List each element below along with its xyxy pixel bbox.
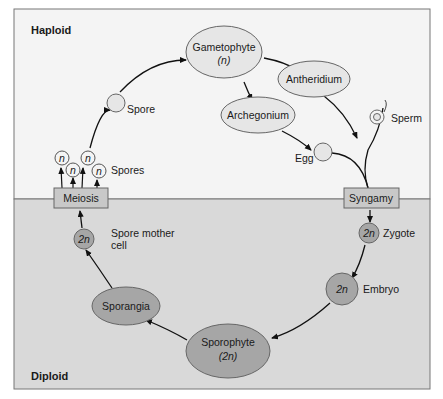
diploid-label: Diploid <box>31 370 68 382</box>
gametophyte-node: Gametophyte (n) <box>186 26 262 78</box>
haploid-label: Haploid <box>31 24 71 36</box>
spore-1-ploidy: n <box>59 152 65 164</box>
spore-label: Spore <box>127 103 155 115</box>
spores-label: Spores <box>111 164 144 176</box>
embryo-ploidy: 2n <box>335 283 348 295</box>
meiosis-box: Meiosis <box>54 188 108 208</box>
antheridium-label: Antheridium <box>286 73 342 85</box>
spore-mother-cell-label-1: Spore mother <box>111 227 175 239</box>
archegonium-label: Archegonium <box>227 109 289 121</box>
zygote-ploidy: 2n <box>362 227 375 239</box>
meiosis-label: Meiosis <box>63 192 99 204</box>
archegonium-node: Archegonium <box>221 97 295 133</box>
syngamy-box: Syngamy <box>344 188 399 208</box>
syngamy-label: Syngamy <box>349 192 394 204</box>
spore-mother-cell-label-2: cell <box>111 239 127 251</box>
zygote-label: Zygote <box>383 227 415 239</box>
sporangia-label: Sporangia <box>102 300 150 312</box>
sporangia-node: Sporangia <box>92 287 160 325</box>
gametophyte-label: Gametophyte <box>192 41 255 53</box>
spore-4-ploidy: n <box>96 165 102 177</box>
spore-3-ploidy: n <box>85 152 91 164</box>
egg-label: Egg <box>295 152 314 164</box>
sporophyte-label: Sporophyte <box>201 336 255 348</box>
embryo-label: Embryo <box>363 283 399 295</box>
sporophyte-node: Sporophyte (2n) <box>186 324 270 378</box>
gametophyte-ploidy: (n) <box>218 54 231 66</box>
spore-mother-cell-ploidy: 2n <box>77 233 90 245</box>
sporophyte-ploidy: (2n) <box>219 350 238 362</box>
plant-life-cycle-diagram: Haploid Diploid Gametophyte (n) Antherid… <box>0 0 443 399</box>
spore-2-ploidy: n <box>70 164 76 176</box>
antheridium-node: Antheridium <box>278 61 350 97</box>
sperm-label: Sperm <box>391 112 422 124</box>
